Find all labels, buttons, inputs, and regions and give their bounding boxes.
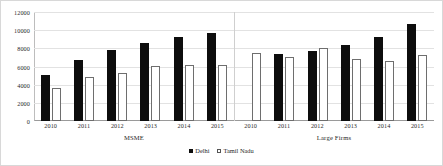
bar-supergroup-msme xyxy=(34,12,234,121)
x-axis-tick-label: 2011 xyxy=(67,122,100,134)
legend-label: Delhi xyxy=(195,147,209,154)
bar-tamilnadu xyxy=(418,55,427,121)
x-axis-tick-label: 2012 xyxy=(101,122,134,134)
y-axis-tick-label: 0 xyxy=(27,118,30,125)
bar-tamilnadu xyxy=(385,61,394,121)
legend-swatch-delhi xyxy=(189,149,193,153)
x-axis-tick-label: 2010 xyxy=(234,122,267,134)
x-axis-tick-label: 2011 xyxy=(267,122,300,134)
x-axis-tick-label: 2013 xyxy=(334,122,367,134)
y-axis-tick-label: 8000 xyxy=(17,45,30,52)
y-axis-tick-label: 2000 xyxy=(17,99,30,106)
x-axis-tick-label: 2010 xyxy=(34,122,67,134)
x-label-supergroup: 201020112012201320142015 xyxy=(234,122,434,134)
bar-tamilnadu xyxy=(285,57,294,121)
bar-delhi xyxy=(407,24,416,121)
bar-group xyxy=(368,12,401,121)
y-axis-tick-label: 4000 xyxy=(17,81,30,88)
bar-delhi xyxy=(41,75,50,121)
bar-delhi xyxy=(274,54,283,121)
x-axis-tick-label: 2014 xyxy=(367,122,400,134)
bar-tamilnadu xyxy=(319,48,328,121)
bar-group xyxy=(268,12,301,121)
legend-item-delhi: Delhi xyxy=(189,147,209,154)
y-axis-tick-label: 12000 xyxy=(14,9,30,16)
plot-area xyxy=(34,12,434,121)
bar-group xyxy=(167,12,200,121)
bar-tamilnadu xyxy=(252,53,261,121)
group-title-label: MSME xyxy=(34,134,234,146)
x-axis-tick-label: 2014 xyxy=(167,122,200,134)
bar-delhi xyxy=(308,51,317,121)
bar-group xyxy=(34,12,67,121)
legend-label: Tamil Nadu xyxy=(223,147,253,154)
bar-group xyxy=(235,12,268,121)
bar-tamilnadu xyxy=(85,77,94,122)
x-label-supergroup: 201020112012201320142015 xyxy=(34,122,234,134)
x-axis-tick-label: 2015 xyxy=(201,122,234,134)
bar-delhi xyxy=(140,43,149,121)
bar-group xyxy=(301,12,334,121)
bar-delhi xyxy=(174,37,183,121)
x-axis-tick-label: 2015 xyxy=(401,122,434,134)
bar-group xyxy=(67,12,100,121)
bar-delhi xyxy=(207,33,216,121)
bar-delhi xyxy=(107,50,116,121)
bar-delhi xyxy=(341,45,350,121)
bar-delhi xyxy=(374,37,383,121)
bar-tamilnadu xyxy=(185,65,194,121)
y-axis-tick-label: 10000 xyxy=(14,27,30,34)
legend-swatch-tamilnadu xyxy=(217,149,221,153)
x-axis-tick-labels: 2010201120122013201420152010201120122013… xyxy=(34,122,434,134)
legend-item-tamilnadu: Tamil Nadu xyxy=(217,147,253,154)
bar-delhi xyxy=(74,60,83,121)
bar-group xyxy=(401,12,434,121)
group-title-label: Large Firms xyxy=(234,134,434,146)
chart-legend: DelhiTamil Nadu xyxy=(1,147,442,154)
bar-tamilnadu xyxy=(52,88,61,121)
bar-tamilnadu xyxy=(352,59,361,121)
bar-tamilnadu xyxy=(118,73,127,121)
bar-groups xyxy=(34,12,434,121)
group-titles: MSMELarge Firms xyxy=(34,134,434,146)
bar-group xyxy=(134,12,167,121)
y-axis: 020004000600080001000012000 xyxy=(1,1,34,121)
y-axis-tick-label: 6000 xyxy=(17,63,30,70)
bar-tamilnadu xyxy=(151,66,160,121)
bar-group xyxy=(101,12,134,121)
x-axis-tick-label: 2012 xyxy=(301,122,334,134)
bar-group xyxy=(200,12,233,121)
bar-tamilnadu xyxy=(218,65,227,121)
x-axis-tick-label: 2013 xyxy=(134,122,167,134)
bar-supergroup-large-firms xyxy=(234,12,435,121)
bar-group xyxy=(334,12,367,121)
bar-chart: 020004000600080001000012000 201020112012… xyxy=(0,0,443,166)
